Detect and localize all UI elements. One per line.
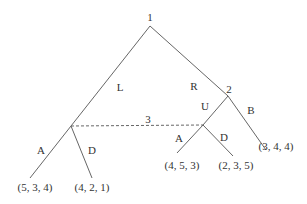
payoff-3: (4, 5, 3) [165, 160, 200, 171]
edge-R [150, 26, 228, 96]
game-tree-diagram: 1 2 3 L R U B A D A D (5, 3, 4) (4, 2, 1… [0, 0, 307, 204]
edge-label-D-right: D [220, 132, 228, 143]
edge-D-right [203, 125, 233, 156]
edge-label-A-left: A [37, 145, 45, 156]
edge-label-L: L [117, 82, 124, 93]
edge-label-R: R [190, 81, 197, 92]
edge-label-B: B [247, 105, 254, 116]
payoff-5: (3, 4, 4) [259, 141, 294, 152]
info-set-label: 3 [145, 114, 151, 125]
payoff-2: (4, 2, 1) [75, 182, 110, 193]
node-1-label: 1 [147, 12, 153, 23]
payoff-1: (5, 3, 4) [18, 182, 53, 193]
edge-L [71, 26, 150, 126]
edge-label-D-left: D [88, 145, 96, 156]
node-2-label: 2 [226, 84, 232, 95]
payoff-4: (2, 3, 5) [219, 160, 254, 171]
edge-label-A-right: A [175, 133, 183, 144]
info-set-dashed-line [71, 125, 203, 126]
edge-label-U: U [201, 101, 209, 112]
tree-edges [0, 0, 307, 204]
